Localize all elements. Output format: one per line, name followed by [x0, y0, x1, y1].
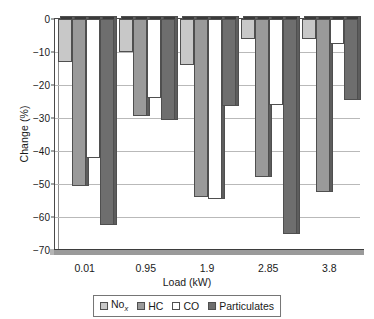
legend-label: Nox	[111, 298, 128, 313]
y-tick-label: 0	[44, 14, 50, 25]
y-tick-label: −20	[33, 80, 50, 91]
bar-front-face	[58, 19, 72, 62]
bar-side-face	[236, 16, 239, 106]
bar-front-face	[241, 19, 255, 39]
bar-front-face	[283, 19, 297, 234]
legend-item: Nox	[100, 298, 128, 313]
x-tick-label: 0.95	[136, 262, 156, 274]
legend-label: Particulates	[219, 300, 274, 312]
bar-front-face	[86, 19, 100, 158]
y-tick-label: −10	[33, 47, 50, 58]
bar-front-face	[222, 19, 236, 106]
legend-swatch-co	[172, 302, 180, 310]
bar-front-face	[255, 19, 269, 177]
x-tick-label: 3.8	[322, 262, 337, 274]
y-tick-mark	[51, 19, 55, 20]
legend-label: CO	[183, 300, 199, 312]
plot-floor	[54, 249, 364, 255]
legend-swatch-particulates	[208, 302, 216, 310]
bar-front-face	[208, 19, 222, 199]
bar-front-face	[72, 19, 86, 186]
y-tick-label: −30	[33, 113, 50, 124]
bar-front-face	[302, 19, 316, 39]
y-tick-label: −50	[33, 179, 50, 190]
x-axis-title: Load (kW)	[0, 276, 374, 288]
chart-legend: NoxHCCOParticulates	[93, 295, 281, 317]
bar-side-face	[358, 16, 361, 100]
y-axis-title: Change (%)	[18, 74, 30, 194]
bar-front-face	[147, 19, 161, 98]
bar-front-face	[316, 19, 330, 192]
bar-side-face	[297, 16, 300, 234]
bar-side-face	[114, 16, 117, 225]
plot-area: 0−10−20−30−40−50−60−70	[54, 18, 360, 249]
legend-label: HC	[148, 300, 163, 312]
y-tick-label: −60	[33, 212, 50, 223]
legend-item: Particulates	[208, 300, 274, 312]
bar-front-face	[269, 19, 283, 105]
bar-front-face	[161, 19, 175, 120]
y-tick-label: −70	[33, 245, 50, 256]
y-tick-mark	[51, 217, 55, 218]
x-tick-label: 2.85	[258, 262, 278, 274]
bar-front-face	[133, 19, 147, 116]
bar-front-face	[180, 19, 194, 65]
bar-side-face	[175, 16, 178, 120]
legend-item: CO	[172, 300, 199, 312]
x-tick-label: 0.01	[74, 262, 94, 274]
x-tick-label: 1.9	[200, 262, 215, 274]
bar-front-face	[344, 19, 358, 100]
bar-front-face	[119, 19, 133, 52]
legend-swatch-hc	[137, 302, 145, 310]
y-tick-mark	[51, 151, 55, 152]
y-tick-mark	[51, 85, 55, 86]
legend-item: HC	[137, 300, 163, 312]
y-tick-mark	[51, 52, 55, 53]
bar-front-face	[100, 19, 114, 225]
legend-swatch-nox	[100, 302, 108, 310]
bar-chart-figure: Change (%) 0−10−20−30−40−50−60−70 0.010.…	[0, 0, 374, 319]
bar-front-face	[194, 19, 208, 197]
y-tick-label: −40	[33, 146, 50, 157]
y-tick-mark	[51, 184, 55, 185]
bar-front-face	[330, 19, 344, 44]
y-tick-mark	[51, 118, 55, 119]
